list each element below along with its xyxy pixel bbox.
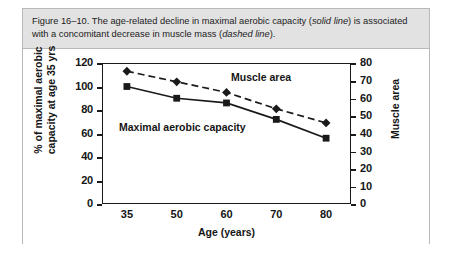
data-point-marker: [173, 95, 180, 102]
data-point-marker: [172, 78, 181, 87]
caption-emphasis-solid-line: solid line: [312, 16, 348, 26]
caption-suffix: ).: [270, 29, 276, 39]
data-point-marker: [123, 67, 132, 76]
series-line: [127, 72, 326, 124]
caption-prefix: Figure 16–10. The age-related decline in…: [32, 16, 312, 26]
data-point-marker: [322, 119, 331, 128]
series-muscle-area: [123, 67, 331, 128]
figure-caption: Figure 16–10. The age-related decline in…: [23, 9, 429, 49]
series-label-maximal-aerobic-capacity: Maximal aerobic capacity: [119, 121, 246, 133]
series-label-muscle-area: Muscle area: [231, 71, 291, 83]
series-plot: [23, 49, 431, 247]
chart-plot-area: 020406080100120 01020304050607080 355060…: [23, 49, 429, 247]
data-point-marker: [124, 84, 131, 91]
data-point-marker: [222, 88, 231, 97]
data-point-marker: [273, 116, 280, 123]
data-point-marker: [272, 105, 281, 114]
caption-emphasis-dashed-line: dashed line: [222, 29, 270, 39]
data-point-marker: [223, 100, 230, 107]
figure-container: Figure 16–10. The age-related decline in…: [22, 8, 430, 244]
data-point-marker: [323, 135, 330, 142]
